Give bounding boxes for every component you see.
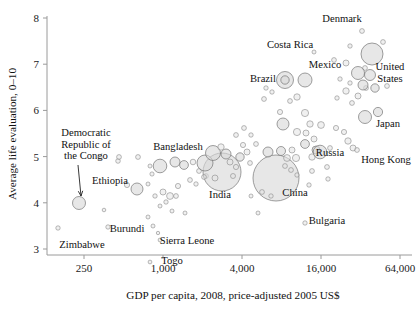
bubble-point xyxy=(335,96,339,100)
label-bangladesh: Bangladesh xyxy=(153,141,203,152)
bubble-point xyxy=(326,177,330,181)
bubble-point xyxy=(294,94,300,100)
bubble-point xyxy=(151,224,155,228)
bubble-point xyxy=(150,172,154,176)
y-tick-label-8: 8 xyxy=(34,12,40,24)
label-burundi: Burundi xyxy=(110,223,145,234)
point-labels-layer: DenmarkCosta RicaMexicoUnitedStatesBrazi… xyxy=(59,13,411,266)
bubble-point xyxy=(164,200,168,204)
bubble-point xyxy=(295,173,299,177)
bubble-point xyxy=(277,109,282,114)
bubble-point xyxy=(188,178,193,183)
bubble-point xyxy=(146,215,150,219)
y-tick-label-7: 7 xyxy=(34,58,40,70)
bubble-point xyxy=(338,77,342,81)
bubble-point xyxy=(170,157,180,167)
bubble-point xyxy=(158,204,162,208)
bubble-point xyxy=(227,159,233,165)
bubble-point xyxy=(221,149,231,159)
bubble-point xyxy=(284,155,291,162)
bubble-japan xyxy=(359,111,372,124)
bubble-point xyxy=(270,90,274,94)
bubble-point xyxy=(301,109,308,116)
bubble-point xyxy=(236,153,244,161)
bubble-chart: 345678 2501,0004,00016,00064,000 Democra… xyxy=(0,0,419,315)
bubble-hong-kong xyxy=(355,148,360,153)
bubble-point xyxy=(301,140,310,149)
bubble-point xyxy=(183,211,187,215)
y-tick-label-6: 6 xyxy=(34,104,40,116)
bubble-point xyxy=(281,76,289,84)
x-tick-label-16000: 16,000 xyxy=(306,262,337,274)
bubble-point xyxy=(102,208,106,212)
label-india: India xyxy=(209,189,231,200)
bubble-point xyxy=(249,133,253,137)
label-zimbabwe: Zimbabwe xyxy=(59,239,105,250)
y-axis-title: Average life evaluation, 0–10 xyxy=(6,68,18,201)
bubble-point xyxy=(249,194,253,198)
callout-line-1: Republic of xyxy=(61,139,111,150)
label-china: China xyxy=(282,187,308,198)
bubble-point xyxy=(202,175,207,180)
bubble-point xyxy=(365,70,376,81)
bubble-point xyxy=(244,149,250,155)
bubble-point xyxy=(283,164,288,169)
bubble-point xyxy=(160,189,166,195)
label-russia: Russia xyxy=(316,147,345,158)
bubble-point xyxy=(352,67,365,80)
bubble-point xyxy=(310,169,315,174)
bubble-point xyxy=(170,209,174,213)
bubble-point xyxy=(242,126,247,131)
y-tick-label-5: 5 xyxy=(34,151,40,163)
bubble-point xyxy=(117,155,122,160)
bubble-point xyxy=(264,86,268,90)
bubble-point xyxy=(373,107,382,116)
bubble-point xyxy=(262,97,267,102)
bubble-democratic-republic-of-the-congo xyxy=(73,197,86,210)
bubble-point xyxy=(288,99,293,104)
bubble-point xyxy=(345,138,351,144)
label-costa-rica: Costa Rica xyxy=(267,39,313,50)
label-hong-kong: Hong Kong xyxy=(361,154,411,165)
bubble-point xyxy=(148,164,152,168)
label-japan: Japan xyxy=(376,118,401,129)
label-bulgaria: Bulgaria xyxy=(309,215,346,226)
bubble-point xyxy=(234,133,239,138)
label-sierra-leone: Sierra Leone xyxy=(160,235,215,246)
bubble-point xyxy=(355,93,361,99)
bubble-point xyxy=(233,164,238,169)
bubble-point xyxy=(318,122,325,129)
bubble-point xyxy=(292,154,299,161)
label-ethiopia: Ethiopia xyxy=(92,175,128,186)
bubble-point xyxy=(371,84,379,92)
bubble-point xyxy=(350,101,355,106)
bubble-point xyxy=(240,142,245,147)
y-axis-ticks: 345678 xyxy=(34,12,48,255)
y-tick-label-3: 3 xyxy=(34,243,40,255)
bubble-point xyxy=(194,182,198,186)
label-states: States xyxy=(377,73,402,84)
bubble-zimbabwe xyxy=(56,226,60,230)
bubble-point xyxy=(175,183,180,188)
bubble-point xyxy=(325,165,330,170)
bubble-point xyxy=(358,80,368,90)
bubble-point xyxy=(293,128,300,135)
bubble-point xyxy=(136,155,141,160)
label-united: United xyxy=(376,61,406,72)
callout-line-2: the Congo xyxy=(64,150,108,161)
bubble-point xyxy=(307,121,313,127)
bubble-point xyxy=(153,194,157,198)
bubble-point xyxy=(303,130,309,136)
bubble-point xyxy=(341,129,346,134)
label-denmark: Denmark xyxy=(322,13,362,24)
x-tick-label-250: 250 xyxy=(76,262,93,274)
label-togo: Togo xyxy=(161,255,183,266)
label-mexico: Mexico xyxy=(309,59,341,70)
bubble-point xyxy=(311,136,317,142)
bubble-bulgaria xyxy=(303,221,307,225)
bubble-point xyxy=(277,118,289,130)
bubble-point xyxy=(348,44,352,48)
bubble-point xyxy=(263,147,273,157)
bubble-point xyxy=(254,142,259,147)
bubble-point xyxy=(343,88,349,94)
